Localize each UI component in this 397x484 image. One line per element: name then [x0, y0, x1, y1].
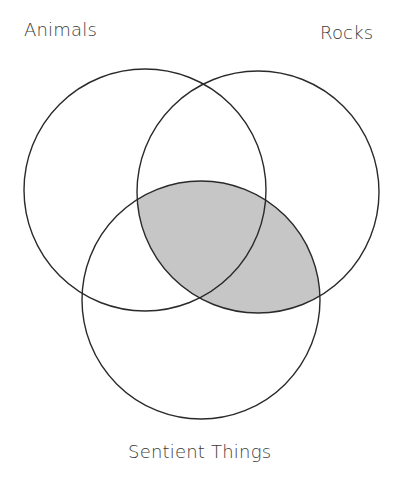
label-animals: Animals — [24, 19, 97, 40]
venn-diagram — [0, 0, 397, 484]
label-rocks: Rocks — [320, 22, 373, 43]
label-sentient-things: Sentient Things — [128, 441, 271, 462]
shaded-region-rocks-sentient — [82, 181, 320, 419]
